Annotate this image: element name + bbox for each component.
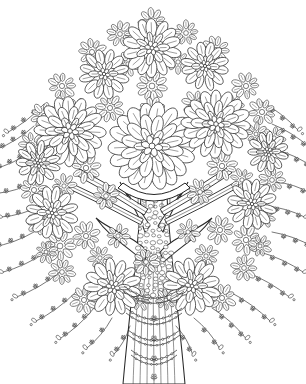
tree-line-art — [0, 0, 306, 384]
artwork-canvas — [0, 0, 306, 384]
